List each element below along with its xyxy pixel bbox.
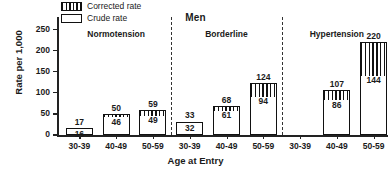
y-tick-label-0: 0 (45, 129, 50, 139)
x-tick-2-40-49 (337, 135, 338, 139)
x-tick-label-1-30-39: 30-39 (179, 141, 201, 151)
bar-value-crude-1-30-39: 32 (185, 123, 194, 133)
x-tick-0-50-59 (153, 135, 154, 139)
bar-value-crude-2-40-49: 86 (332, 100, 341, 110)
bar-value-corrected-0-50-59: 59 (148, 99, 157, 109)
y-tick-150: 150 (53, 71, 57, 72)
x-tick-label-0-30-39: 30-39 (69, 141, 91, 151)
x-axis-title: Age at Entry (0, 155, 391, 166)
bar-value-crude-2-50-59: 144 (367, 75, 381, 85)
x-tick-2-50-59 (374, 135, 375, 139)
bar-value-corrected-0-30-39: 17 (75, 117, 84, 127)
group-divider-1 (282, 17, 283, 135)
x-axis-line (57, 135, 388, 137)
y-tick-label-50: 50 (41, 108, 50, 118)
bar-value-crude-1-40-49: 61 (222, 110, 231, 120)
x-tick-1-40-49 (227, 135, 228, 139)
x-tick-label-2-30-39: 30-39 (289, 141, 311, 151)
y-tick-200: 200 (53, 50, 57, 51)
x-tick-1-30-39 (190, 135, 191, 139)
legend-label-corrected-rate: Corrected rate (87, 2, 141, 11)
x-tick-label-0-40-49: 40-49 (105, 141, 127, 151)
bar-corrected-1-50-59 (250, 83, 277, 97)
bar-corrected-2-50-59 (360, 42, 387, 75)
y-tick-100: 100 (53, 92, 57, 93)
x-tick-label-0-50-59: 50-59 (142, 141, 164, 151)
x-tick-0-40-49 (116, 135, 117, 139)
x-tick-0-30-39 (79, 135, 80, 139)
y-axis-line (57, 17, 59, 135)
x-tick-label-2-40-49: 40-49 (326, 141, 348, 151)
bar-value-corrected-1-40-49: 68 (222, 95, 231, 105)
y-tick-label-150: 150 (36, 66, 50, 76)
x-tick-label-1-50-59: 50-59 (252, 141, 274, 151)
x-tick-2-30-39 (300, 135, 301, 139)
bar-value-crude-1-50-59: 94 (259, 96, 268, 106)
bar-value-crude-0-50-59: 49 (148, 115, 157, 125)
bar-value-corrected-0-40-49: 50 (111, 103, 120, 113)
y-tick-50: 50 (53, 113, 57, 114)
x-tick-1-50-59 (263, 135, 264, 139)
bar-value-corrected-1-30-39: 33 (185, 110, 194, 120)
y-tick-0: 0 (53, 134, 57, 135)
x-tick-label-1-40-49: 40-49 (216, 141, 238, 151)
x-tick-label-2-50-59: 50-59 (363, 141, 385, 151)
bar-value-crude-0-40-49: 46 (111, 117, 120, 127)
y-tick-label-250: 250 (36, 24, 50, 34)
bar-value-corrected-1-50-59: 124 (256, 72, 270, 82)
plot-area: 050100150200250 171650465949333268611249… (57, 17, 388, 135)
legend-item-corrected-rate: Corrected rate (61, 1, 141, 12)
chart-container: Corrected rate Crude rate Men Normotensi… (0, 0, 391, 173)
y-tick-250: 250 (53, 29, 57, 30)
y-tick-label-200: 200 (36, 45, 50, 55)
bar-value-corrected-2-50-59: 220 (367, 31, 381, 41)
legend-swatch-corrected-rate-icon (61, 2, 82, 11)
y-tick-label-100: 100 (36, 87, 50, 97)
y-axis-title: Rate per 1,000 (13, 18, 24, 108)
bar-corrected-2-40-49 (323, 90, 350, 100)
group-divider-0 (171, 17, 172, 135)
bar-value-corrected-2-40-49: 107 (330, 79, 344, 89)
